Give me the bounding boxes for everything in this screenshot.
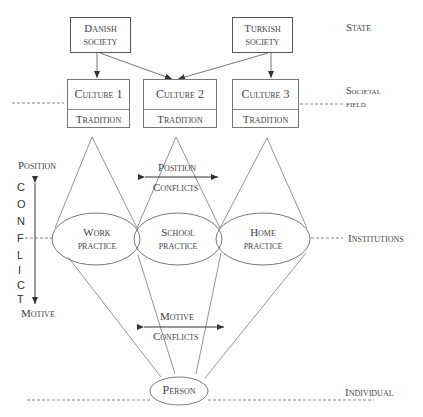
diagram-lines bbox=[0, 0, 423, 417]
position-axis-label: Position bbox=[18, 160, 56, 171]
work-practice-label: Work practice bbox=[62, 226, 132, 252]
person-label: Person bbox=[150, 384, 208, 397]
culture-3-box: Culture 3 Tradition bbox=[232, 79, 299, 128]
danish-society-line1: Danish bbox=[71, 22, 130, 35]
home-practice-line1: Home bbox=[228, 226, 298, 239]
culture-2-label: Culture 2 bbox=[144, 80, 216, 110]
turkish-society-line2: society bbox=[233, 35, 292, 48]
turkish-society-line1: Turkish bbox=[233, 22, 292, 35]
arrow-turkish-to-culture2 bbox=[178, 53, 268, 79]
societal-label: Societal bbox=[346, 86, 381, 96]
school-practice-label: School practice bbox=[143, 226, 213, 252]
conflict-letter: T bbox=[17, 293, 24, 305]
conflict-letter: N bbox=[17, 215, 25, 227]
home-practice-label: Home practice bbox=[228, 226, 298, 252]
conflict-letter: C bbox=[17, 279, 25, 291]
culture-3-label: Culture 3 bbox=[233, 80, 298, 110]
state-label: State bbox=[346, 22, 371, 33]
institutions-label: Institutions bbox=[348, 233, 404, 244]
field-label: field bbox=[346, 99, 366, 109]
individual-label: Individual bbox=[345, 387, 394, 398]
danish-society-box: Danish society bbox=[70, 17, 131, 53]
school-practice-line2: practice bbox=[143, 239, 213, 252]
culture-2-tradition: Tradition bbox=[144, 110, 216, 128]
culture-3-tradition: Tradition bbox=[233, 110, 298, 128]
school-practice-line1: School bbox=[143, 226, 213, 239]
arrow-danish-to-culture2 bbox=[100, 53, 172, 79]
conflict-letter: F bbox=[17, 232, 24, 244]
danish-society-line2: society bbox=[71, 35, 130, 48]
culture-1-box: Culture 1 Tradition bbox=[67, 79, 130, 128]
motive-conflicts-line1: Motive bbox=[160, 311, 194, 322]
turkish-society-box: Turkish society bbox=[232, 17, 293, 53]
conflict-letter: C bbox=[17, 181, 25, 193]
culture-1-tradition: Tradition bbox=[68, 110, 129, 128]
conflict-letter: O bbox=[17, 198, 26, 210]
culture-2-box: Culture 2 Tradition bbox=[143, 79, 217, 128]
work-practice-line1: Work bbox=[62, 226, 132, 239]
motive-conflicts-line2: Conflicts bbox=[153, 331, 199, 342]
work-practice-line2: practice bbox=[62, 239, 132, 252]
conflict-letter: I bbox=[18, 264, 21, 276]
position-conflicts-line1: Position bbox=[158, 162, 196, 173]
conflict-letter: L bbox=[17, 249, 23, 261]
position-conflicts-line2: Conflicts bbox=[153, 182, 199, 193]
culture-1-label: Culture 1 bbox=[68, 80, 129, 110]
home-practice-line2: practice bbox=[228, 239, 298, 252]
motive-axis-label: Motive bbox=[21, 308, 55, 319]
